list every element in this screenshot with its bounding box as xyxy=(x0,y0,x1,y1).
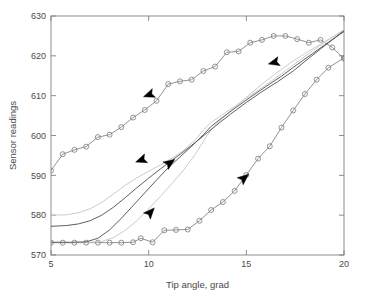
y-tick-label: 620 xyxy=(31,51,46,61)
series-light-descending-line xyxy=(51,30,344,216)
x-tick-label: 10 xyxy=(144,259,154,269)
x-tick-label: 15 xyxy=(241,259,251,269)
arrow-upper-branch-left-icon xyxy=(144,89,156,98)
labels-group: 5101520570580590600610620630Tip angle, g… xyxy=(7,11,349,290)
arrow-lower-branch-right-icon xyxy=(237,174,248,185)
x-axis-title: Tip angle, grad xyxy=(166,279,229,290)
y-tick-label: 590 xyxy=(31,171,46,181)
series-line xyxy=(51,30,344,216)
y-axis-title: Sensor readings xyxy=(7,101,18,170)
y-tick-label: 580 xyxy=(31,210,46,220)
x-tick-label: 20 xyxy=(339,259,349,269)
x-tick-label: 5 xyxy=(48,259,53,269)
y-tick-label: 600 xyxy=(31,131,46,141)
y-tick-label: 570 xyxy=(31,250,46,260)
series-upper-branch-markers xyxy=(49,33,347,173)
y-tick-label: 610 xyxy=(31,91,46,101)
arrow-ascending-mid-icon xyxy=(163,159,175,169)
arrow-ascending-low-icon xyxy=(144,208,155,219)
arrow-upper-right-icon xyxy=(268,57,280,66)
chart-svg: 5101520570580590600610620630Tip angle, g… xyxy=(0,0,367,296)
figure-container: 5101520570580590600610620630Tip angle, g… xyxy=(0,0,367,296)
arrows-group xyxy=(136,57,280,219)
series-group xyxy=(49,30,347,246)
y-tick-label: 630 xyxy=(31,11,46,21)
arrow-descending-mid-icon xyxy=(136,154,148,163)
